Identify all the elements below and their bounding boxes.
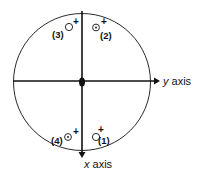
y-axis-label: y axis	[163, 76, 191, 87]
diagram-canvas	[0, 0, 200, 176]
y-axis-arrow-icon	[154, 78, 160, 85]
open-circle-icon	[65, 23, 72, 30]
plus-sign: +	[73, 127, 79, 137]
plus-sign: +	[73, 17, 79, 27]
x-axis-var: x	[84, 158, 90, 170]
marker-label-2: (2)	[100, 31, 112, 41]
marker-label-4: (4)	[51, 136, 63, 146]
dot-center-icon	[95, 27, 97, 29]
plus-sign: +	[98, 125, 104, 135]
plus-sign: +	[101, 17, 107, 27]
marker-label-3: (3)	[52, 30, 64, 40]
dot-center-icon	[67, 136, 69, 138]
origin-point-icon	[79, 78, 85, 87]
x-axis-word: axis	[93, 158, 113, 170]
x-axis-label: x axis	[84, 159, 112, 170]
marker-label-1: (1)	[98, 136, 110, 146]
y-axis-var: y	[163, 75, 169, 87]
y-axis-word: axis	[172, 75, 192, 87]
